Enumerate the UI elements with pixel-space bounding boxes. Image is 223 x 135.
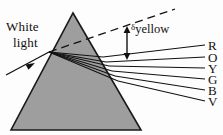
emergent-ray-yellow [109,66,205,68]
white-light-label-line2: light [13,36,39,49]
deviation-arrow-head-up [124,26,131,33]
deviation-angle-double-arrow [124,26,131,60]
prism-dispersion-diagram: White light δyellow ROYGBV [0,0,223,135]
white-light-label: White light [6,20,39,49]
white-light-label-line1: White [6,19,39,34]
delta-subscript-yellow: yellow [135,22,169,36]
emergent-ray-orange [106,57,205,62]
emergent-ray-violet [118,81,205,101]
spectrum-letter-violet: V [208,95,217,108]
emergent-ray-red [103,45,205,57]
deviation-arrow-head-down [124,53,131,60]
deviation-angle-label: δyellow [131,23,169,36]
